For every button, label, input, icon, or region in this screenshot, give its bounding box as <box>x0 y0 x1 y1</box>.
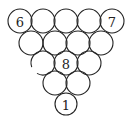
ball <box>66 71 90 95</box>
ball <box>54 9 78 33</box>
ball-7: 7 <box>100 9 124 33</box>
ball-1: 1 <box>55 93 77 115</box>
ball-group: 6781 <box>8 9 124 115</box>
ball-number-label: 1 <box>62 98 70 113</box>
ball-outline <box>66 71 90 95</box>
ball-outline <box>54 9 78 33</box>
ball <box>43 71 67 95</box>
ball <box>77 9 101 33</box>
ball-outline <box>31 9 55 33</box>
ball-outline <box>43 71 67 95</box>
ball-number-label: 7 <box>108 15 116 30</box>
ball-outline <box>77 9 101 33</box>
ball-number-label: 8 <box>62 57 70 72</box>
ball-number-label: 6 <box>16 15 24 30</box>
ball <box>31 9 55 33</box>
billiard-rack-diagram: 6781 <box>0 0 136 128</box>
ball-6: 6 <box>8 9 32 33</box>
